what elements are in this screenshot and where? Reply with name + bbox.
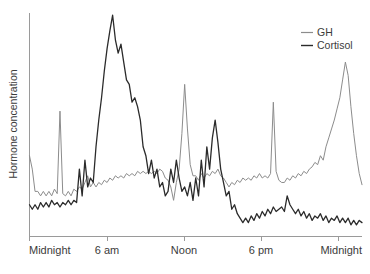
x-tick-label-midnight-end: Midnight	[320, 244, 362, 256]
x-tick-label-noon: Noon	[171, 244, 197, 256]
series-line-cortisol	[30, 15, 363, 225]
x-tick-label-midnight-start: Midnight	[29, 244, 71, 256]
hormone-concentration-chart: Hormone concentration Midnight 6 am Noon…	[0, 0, 370, 274]
x-tick-label-6am: 6 am	[95, 244, 119, 256]
y-axis-title: Hormone concentration	[7, 69, 19, 178]
legend-label-cortisol: Cortisol	[317, 39, 353, 51]
chart-legend: GH Cortisol	[301, 26, 353, 51]
legend-label-gh: GH	[317, 26, 333, 38]
series-layer	[30, 15, 363, 225]
x-tick-label-6pm: 6 pm	[249, 244, 273, 256]
chart-canvas: Hormone concentration Midnight 6 am Noon…	[0, 0, 370, 274]
